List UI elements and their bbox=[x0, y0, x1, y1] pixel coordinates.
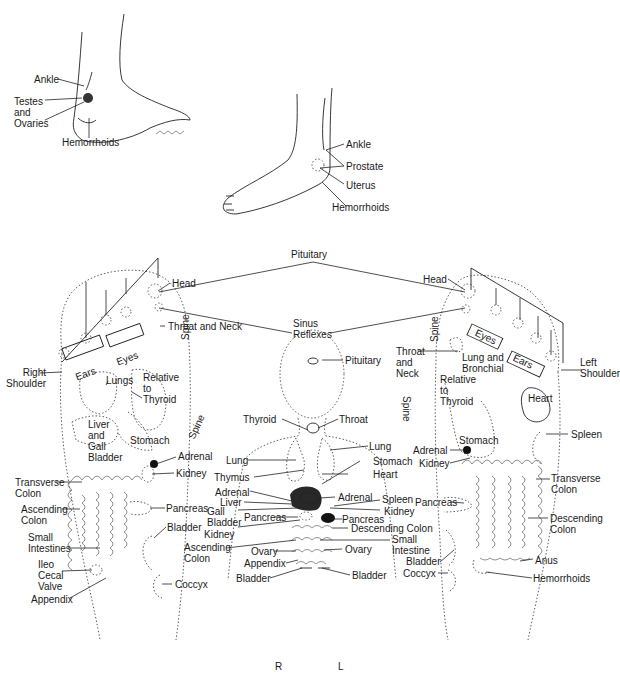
label-r-head: Head bbox=[172, 278, 196, 289]
label-prostate: Prostate bbox=[346, 161, 383, 172]
label-r-ileo-cecal-valve: Ileo Cecal Valve bbox=[38, 559, 64, 592]
label-c-pituitary: Pituitary bbox=[345, 355, 381, 366]
label-c-kidney-right: Kidney bbox=[384, 506, 415, 517]
label-inner-ankle: Ankle bbox=[34, 74, 59, 85]
label-pituitary-top: Pituitary bbox=[291, 249, 327, 260]
label-r-small-intestines: Small Intestines bbox=[28, 532, 71, 554]
label-inner-hemorrhoids: Hemorrhoids bbox=[62, 137, 119, 148]
label-l-lung-bronchial: Lung and Bronchial bbox=[462, 352, 504, 374]
label-r-bladder: Bladder bbox=[167, 522, 201, 533]
label-right-orientation: R bbox=[275, 661, 282, 672]
label-c-adrenal-right: Adrenal bbox=[338, 492, 372, 503]
label-l-heart: Heart bbox=[528, 393, 552, 404]
label-r-appendix: Appendix bbox=[31, 594, 73, 605]
label-r-adrenal: Adrenal bbox=[178, 451, 212, 462]
label-l-adrenal: Adrenal bbox=[413, 445, 447, 456]
label-r-ascending-colon: Ascending Colon bbox=[21, 504, 68, 526]
label-c-stomach: Stomach bbox=[373, 456, 412, 467]
label-l-bladder: Bladder bbox=[406, 556, 440, 567]
label-r-spine-top: Spine bbox=[180, 314, 191, 340]
label-uterus: Uterus bbox=[346, 180, 375, 191]
label-l-stomach: Stomach bbox=[459, 435, 498, 446]
label-c-bladder-right: Bladder bbox=[352, 570, 386, 581]
label-c-bladder-left: Bladder bbox=[236, 573, 270, 584]
label-l-kidney: Kidney bbox=[419, 458, 450, 469]
label-l-spine-top: Spine bbox=[429, 316, 440, 342]
label-c-kidney-left: Kidney bbox=[204, 529, 235, 540]
label-left-orientation: L bbox=[338, 661, 344, 672]
label-c-heart: Heart bbox=[373, 469, 397, 480]
label-l-pancreas: Pancreas bbox=[415, 497, 457, 508]
label-r-stomach: Stomach bbox=[130, 435, 169, 446]
label-r-coccyx: Coccyx bbox=[175, 579, 208, 590]
label-c-appendix: Appendix bbox=[244, 558, 286, 569]
label-r-transverse-colon: Transverse Colon bbox=[15, 477, 65, 499]
label-c-ascending-colon: Ascending Colon bbox=[184, 542, 231, 564]
label-r-right-shoulder: Right Shoulder bbox=[6, 367, 46, 389]
label-c-ovary-left: Ovary bbox=[251, 546, 278, 557]
label-r-lungs: Lungs bbox=[106, 375, 133, 386]
label-l-throat-neck: Throat and Neck bbox=[396, 346, 425, 379]
label-l-coccyx: Coccyx bbox=[403, 568, 436, 579]
label-l-left-shoulder: Left Shoulder bbox=[580, 357, 620, 379]
label-r-liver-gall: Liver and Gall Bladder bbox=[88, 419, 122, 463]
label-outer-hemorrhoids: Hemorrhoids bbox=[332, 202, 389, 213]
label-testes-ovaries: Testes and Ovaries bbox=[14, 96, 48, 129]
label-l-descending-colon: Descending Colon bbox=[550, 513, 603, 535]
label-c-ovary-right: Ovary bbox=[345, 544, 372, 555]
label-sinus-reflexes: Sinus Reflexes bbox=[293, 318, 332, 340]
label-c-thyroid: Thyroid bbox=[243, 414, 276, 425]
label-r-pancreas: Pancreas bbox=[166, 503, 208, 514]
label-c-throat: Throat bbox=[339, 414, 368, 425]
label-c-thymus: Thymus bbox=[214, 472, 250, 483]
label-c-spleen: Spleen bbox=[382, 494, 413, 505]
label-c-lung-right: Lung bbox=[369, 441, 391, 452]
label-c-gall-bladder: Gall Bladder bbox=[207, 506, 241, 528]
label-l-spine-mid: Spine bbox=[401, 396, 412, 422]
label-l-relative-thyroid: Relative to Thyroid bbox=[440, 374, 476, 407]
label-c-pancreas-left: Pancreas bbox=[244, 512, 286, 523]
outer-ankle-drawing bbox=[223, 88, 346, 214]
label-c-small-intestine: Small Intestine bbox=[392, 534, 430, 556]
central-body-drawing bbox=[226, 330, 396, 580]
label-r-kidney: Kidney bbox=[176, 468, 207, 479]
label-l-hemorrhoids: Hemorrhoids bbox=[533, 573, 590, 584]
label-outer-ankle: Ankle bbox=[346, 139, 371, 150]
label-l-spleen: Spleen bbox=[571, 429, 602, 440]
inner-ankle-drawing bbox=[45, 14, 190, 142]
label-l-head: Head bbox=[423, 274, 447, 285]
label-l-transverse-colon: Transverse Colon bbox=[551, 473, 601, 495]
label-l-anus: Anus bbox=[535, 555, 558, 566]
label-r-relative-thyroid: Relative to Thyroid bbox=[143, 372, 179, 405]
label-c-descending-colon: Descending Colon bbox=[351, 523, 433, 534]
label-c-lung-left: Lung bbox=[226, 455, 248, 466]
